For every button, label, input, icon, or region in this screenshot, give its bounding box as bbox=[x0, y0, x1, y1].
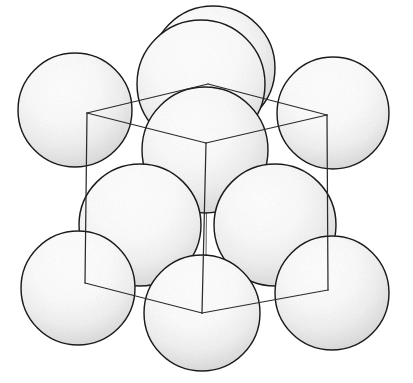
crystal-structure-illustration bbox=[0, 0, 413, 383]
sphere-corner-bottom-left bbox=[21, 231, 135, 345]
sphere-corner-top-right bbox=[277, 57, 389, 169]
sphere-group bbox=[18, 6, 389, 371]
sphere-corner-bottom-right bbox=[275, 236, 389, 350]
sphere-corner-top-left bbox=[18, 53, 132, 167]
figure-canvas bbox=[0, 0, 413, 383]
